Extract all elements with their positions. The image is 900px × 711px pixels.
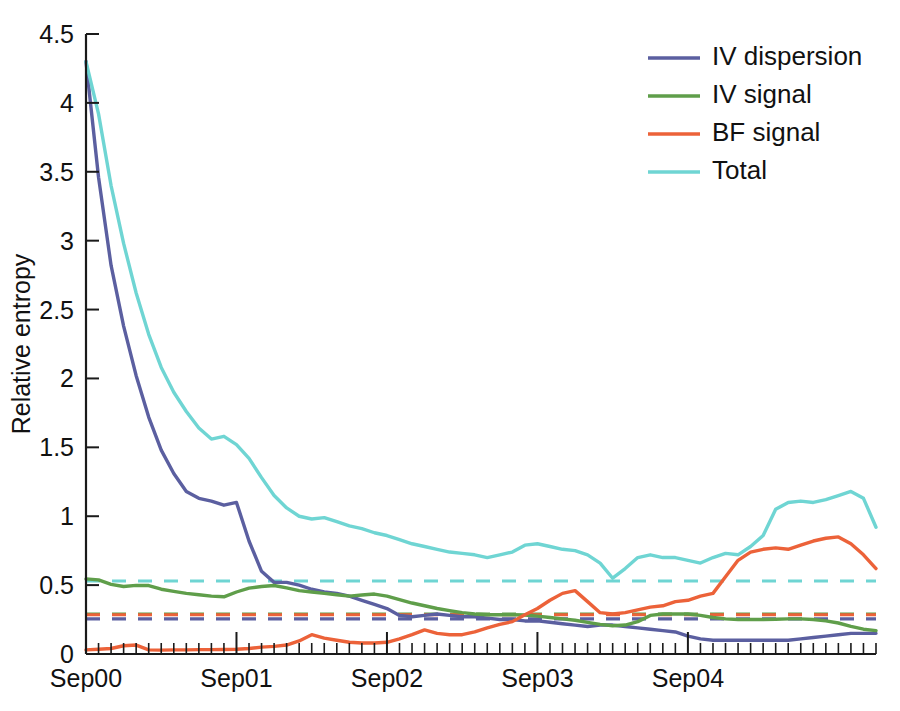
y-axis-label: Relative entropy (7, 253, 35, 434)
y-tick-label-8: 4 (60, 89, 74, 117)
y-tick-label-5: 2.5 (39, 296, 74, 324)
y-tick-labels-group: 00.511.522.533.544.5 (39, 20, 74, 668)
series-line-2 (86, 537, 876, 650)
y-tick-label-1: 0.5 (39, 571, 74, 599)
chart-figure: 00.511.522.533.544.5 Sep00Sep01Sep02Sep0… (0, 0, 900, 711)
x-tick-label-3: Sep03 (501, 664, 573, 692)
x-tick-label-2: Sep02 (351, 664, 423, 692)
y-tick-label-6: 3 (60, 227, 74, 255)
legend-label-3: Total (712, 155, 767, 185)
x-tick-labels-group: Sep00Sep01Sep02Sep03Sep04 (50, 664, 724, 692)
y-tick-label-7: 3.5 (39, 158, 74, 186)
x-tick-label-0: Sep00 (50, 664, 122, 692)
series-line-0 (86, 62, 876, 641)
legend-label-2: BF signal (712, 117, 820, 147)
series-line-1 (86, 579, 876, 631)
chart-legend: IV dispersionIV signalBF signalTotal (648, 41, 862, 185)
y-axis-label-group: Relative entropy (7, 253, 35, 434)
y-tick-label-3: 1.5 (39, 433, 74, 461)
relative-entropy-line-chart: 00.511.522.533.544.5 Sep00Sep01Sep02Sep0… (0, 0, 900, 711)
y-tick-label-9: 4.5 (39, 20, 74, 48)
x-tick-label-4: Sep04 (652, 664, 724, 692)
data-series-group (86, 62, 876, 651)
y-tick-label-4: 2 (60, 364, 74, 392)
x-tick-label-1: Sep01 (200, 664, 272, 692)
legend-label-0: IV dispersion (712, 41, 862, 71)
legend-label-1: IV signal (712, 79, 812, 109)
y-tick-label-2: 1 (60, 502, 74, 530)
